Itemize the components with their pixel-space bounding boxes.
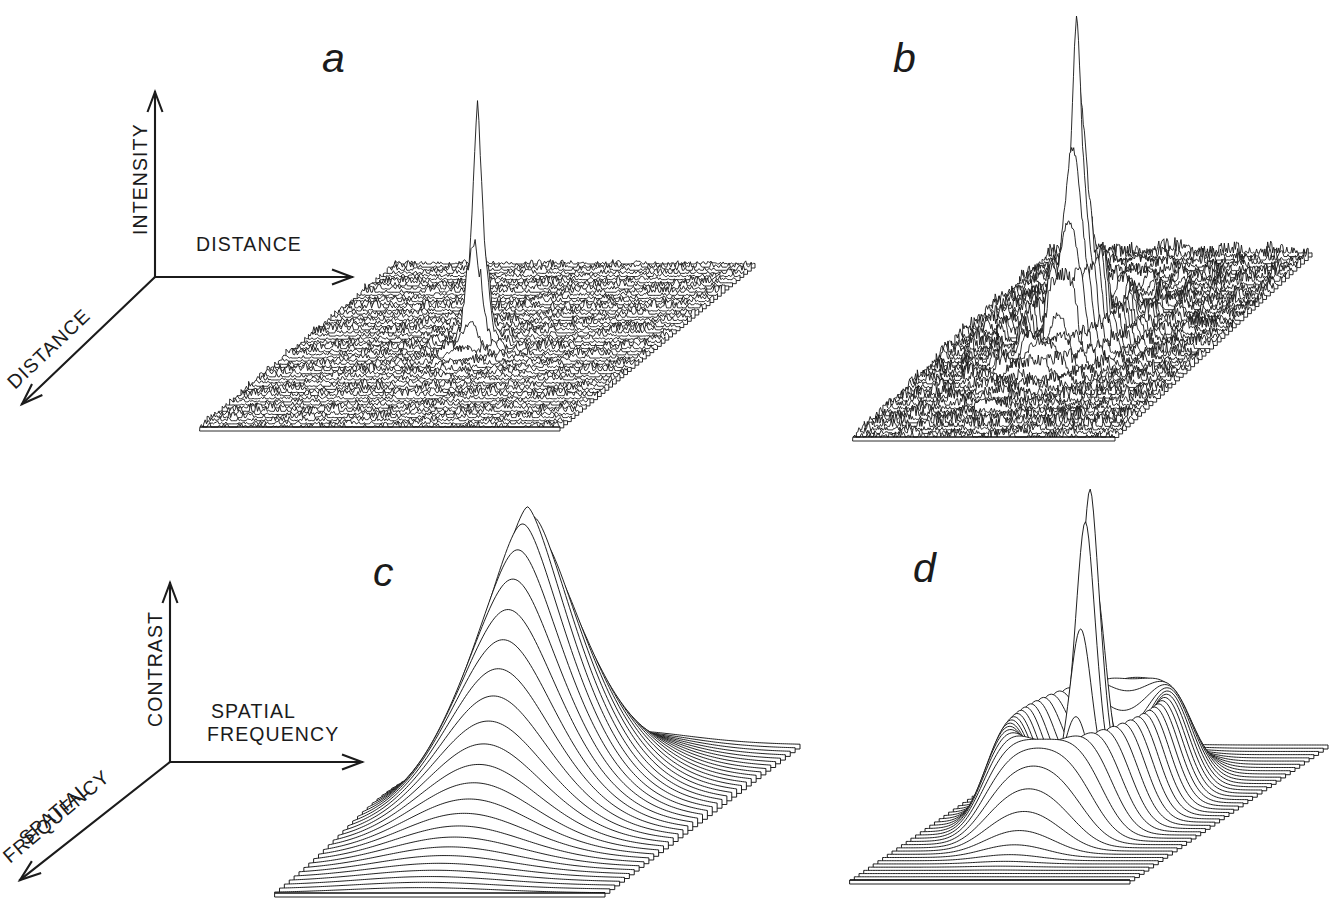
- spatial-domain-axes: INTENSITY DISTANCE DISTANCE: [3, 92, 352, 404]
- contrast-axis-label: CONTRAST: [144, 611, 166, 727]
- panel-letter-c: c: [373, 549, 394, 595]
- panel-letter-d: d: [913, 545, 937, 591]
- intensity-axis-label: INTENSITY: [129, 123, 151, 235]
- axis-and-label-layer: INTENSITY DISTANCE DISTANCE CONTRAST SPA…: [0, 0, 1334, 902]
- distance-axis-label: DISTANCE: [196, 233, 302, 255]
- spatial-frequency-axis-label-line1: SPATIAL: [211, 700, 296, 722]
- frequency-domain-axes: CONTRAST SPATIAL FREQUENCY SPATIAL FREQU…: [0, 583, 362, 880]
- panel-letter-a: a: [322, 35, 345, 81]
- panel-letter-b: b: [893, 35, 916, 81]
- figure-canvas: INTENSITY DISTANCE DISTANCE CONTRAST SPA…: [0, 0, 1334, 902]
- spatial-frequency-axis-label-line2: FREQUENCY: [207, 723, 339, 745]
